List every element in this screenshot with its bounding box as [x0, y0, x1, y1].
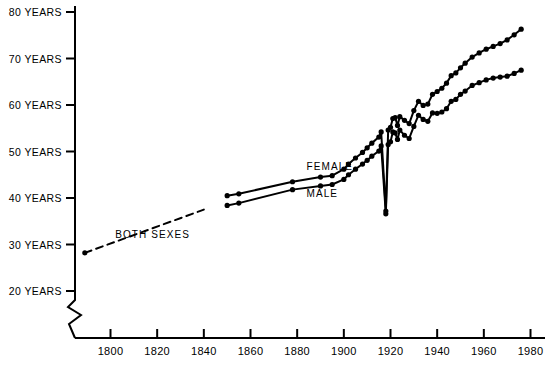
data-point	[369, 154, 374, 159]
data-point	[360, 161, 365, 166]
x-tick-label-1900: 1900	[331, 345, 357, 357]
data-point	[435, 89, 440, 94]
annotation-female: FEMALE	[307, 161, 354, 172]
data-point	[430, 92, 435, 97]
data-point	[379, 129, 384, 134]
y-axis-tick-labels: 20 YEARS30 YEARS40 YEARS50 YEARS60 YEARS…	[9, 6, 62, 297]
data-point	[360, 150, 365, 155]
data-point	[421, 103, 426, 108]
data-point	[376, 148, 381, 153]
data-point	[416, 113, 421, 118]
x-tick-label-1940: 1940	[424, 345, 450, 357]
data-point	[449, 99, 454, 104]
x-tick-label-1860: 1860	[238, 345, 264, 357]
x-tick-label-1820: 1820	[144, 345, 170, 357]
data-point	[458, 65, 463, 70]
data-point	[463, 88, 468, 93]
data-point	[369, 141, 374, 146]
data-point	[346, 172, 351, 177]
y-tick-label-80: 80 YEARS	[9, 6, 62, 18]
data-point	[379, 143, 384, 148]
data-point	[512, 32, 517, 37]
data-point	[393, 130, 398, 135]
data-point	[512, 71, 517, 76]
y-axis-ticks	[66, 12, 75, 291]
data-point	[519, 68, 524, 73]
data-point	[470, 55, 475, 60]
data-point	[402, 133, 407, 138]
data-point	[290, 179, 295, 184]
chart-canvas: 20 YEARS30 YEARS40 YEARS50 YEARS60 YEARS…	[0, 0, 555, 365]
data-point	[519, 27, 524, 32]
y-tick-label-30: 30 YEARS	[9, 239, 62, 251]
data-point	[463, 61, 468, 66]
x-tick-label-1800: 1800	[98, 345, 124, 357]
data-point	[225, 193, 230, 198]
y-tick-label-60: 60 YEARS	[9, 99, 62, 111]
data-point	[411, 108, 416, 113]
data-point	[458, 92, 463, 97]
data-point	[444, 106, 449, 111]
data-point	[318, 174, 323, 179]
x-tick-label-1840: 1840	[191, 345, 217, 357]
data-point	[236, 201, 241, 206]
data-point	[430, 110, 435, 115]
data-point	[407, 136, 412, 141]
y-tick-label-70: 70 YEARS	[9, 53, 62, 65]
data-point	[397, 114, 402, 119]
data-point	[82, 250, 87, 255]
data-point	[330, 173, 335, 178]
y-tick-label-40: 40 YEARS	[9, 192, 62, 204]
data-point	[453, 97, 458, 102]
data-point	[397, 128, 402, 133]
data-point	[425, 101, 430, 106]
data-point	[290, 187, 295, 192]
annotation-male: MALE	[307, 188, 339, 199]
data-point	[477, 80, 482, 85]
data-point	[365, 158, 370, 163]
data-point	[365, 145, 370, 150]
data-point	[402, 118, 407, 123]
data-point	[484, 47, 489, 52]
data-point	[341, 177, 346, 182]
data-point	[484, 77, 489, 82]
x-tick-label-1880: 1880	[284, 345, 310, 357]
x-tick-label-1980: 1980	[518, 345, 544, 357]
life-expectancy-chart: 20 YEARS30 YEARS40 YEARS50 YEARS60 YEARS…	[0, 0, 555, 365]
data-point	[407, 121, 412, 126]
y-axis	[68, 6, 81, 338]
data-point	[425, 119, 430, 124]
data-point	[491, 75, 496, 80]
data-point	[477, 50, 482, 55]
data-point	[395, 137, 400, 142]
data-point	[416, 99, 421, 104]
data-point	[353, 155, 358, 160]
x-axis-ticks	[111, 329, 531, 338]
data-point	[435, 111, 440, 116]
data-point	[498, 41, 503, 46]
y-tick-label-20: 20 YEARS	[9, 285, 62, 297]
data-point	[453, 70, 458, 75]
x-tick-label-1920: 1920	[378, 345, 404, 357]
data-point	[491, 44, 496, 49]
data-point	[421, 117, 426, 122]
data-point	[498, 75, 503, 80]
data-point	[411, 124, 416, 129]
series-markers-female	[225, 27, 524, 214]
data-point	[505, 37, 510, 42]
data-point	[388, 139, 393, 144]
series-markers-both-sexes	[82, 250, 87, 255]
data-point	[225, 203, 230, 208]
series-line-female	[227, 29, 521, 211]
y-tick-label-50: 50 YEARS	[9, 146, 62, 158]
data-point	[439, 109, 444, 114]
data-point	[393, 115, 398, 120]
series-annotations: BOTH SEXESFEMALEMALE	[115, 161, 353, 239]
data-point	[376, 134, 381, 139]
data-point	[439, 86, 444, 91]
data-point	[353, 167, 358, 172]
annotation-both-sexes: BOTH SEXES	[115, 229, 190, 240]
x-axis-tick-labels: 1800182018401860188019001920194019601980	[98, 345, 544, 357]
data-point	[388, 125, 393, 130]
data-point	[444, 81, 449, 86]
